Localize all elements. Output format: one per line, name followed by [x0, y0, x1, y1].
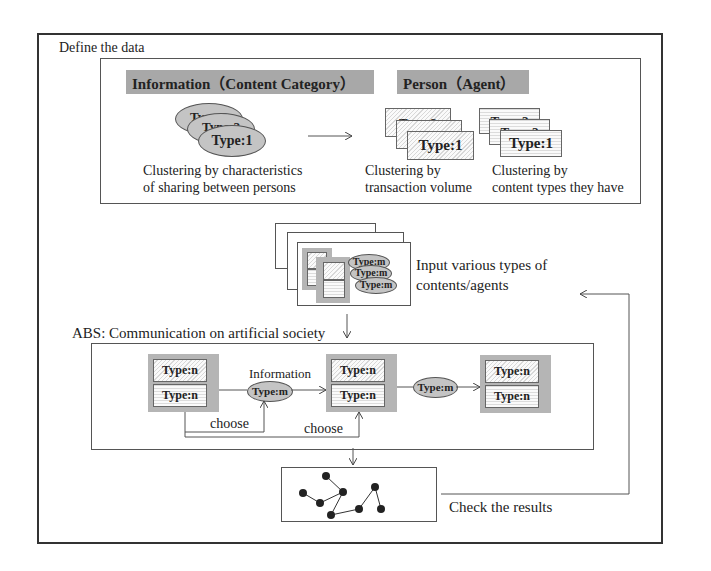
abs-agent-3-top: Type:n — [485, 360, 539, 383]
volume-caption: Clustering by transaction volume — [365, 162, 472, 196]
input-agent-group-2 — [316, 257, 350, 303]
input-doc-front: Type:m Type:m Type:m — [297, 242, 411, 306]
choose-label-1: choose — [210, 416, 249, 432]
abs-title: ABS: Communication on artificial society — [72, 325, 325, 342]
abs-agent-2-top: Type:n — [331, 359, 385, 382]
abs-agent-2-bottom: Type:n — [331, 384, 385, 407]
info-caption: Clustering by characteristics of sharing… — [143, 162, 302, 196]
volume-card-1: Type:1 — [407, 131, 474, 160]
input-ellipse-3: Type:m — [355, 277, 397, 294]
abs-agent-1-bottom: Type:n — [153, 384, 207, 407]
content-caption-line2: content types they have — [492, 179, 624, 196]
info-caption-line1: Clustering by characteristics — [143, 162, 302, 179]
volume-caption-line2: transaction volume — [365, 179, 472, 196]
input-caption-line2: contents/agents — [416, 275, 547, 295]
abs-agent-3: Type:n Type:n — [480, 355, 551, 413]
person-header: Person（Agent） — [397, 70, 529, 94]
results-caption: Check the results — [449, 499, 552, 516]
information-header: Information（Content Category） — [126, 70, 374, 94]
content-caption-line1: Clustering by — [492, 162, 624, 179]
abs-agent-1-top: Type:n — [153, 359, 207, 382]
abs-agent-3-bottom: Type:n — [485, 385, 539, 408]
choose-label-2: choose — [304, 421, 343, 437]
input-caption: Input various types of contents/agents — [416, 255, 547, 295]
message-ellipse-2: Type:m — [413, 377, 458, 398]
abs-agent-1: Type:n Type:n — [148, 354, 219, 412]
volume-caption-line1: Clustering by — [365, 162, 472, 179]
info-caption-line2: of sharing between persons — [143, 179, 302, 196]
results-panel — [281, 467, 437, 522]
message-ellipse-1: Type:m — [247, 381, 293, 402]
info-ellipse-1: Type:1 — [198, 125, 266, 157]
content-caption: Clustering by content types they have — [492, 162, 624, 196]
input-caption-line1: Input various types of — [416, 255, 547, 275]
information-label: Information — [249, 366, 311, 382]
abs-agent-2: Type:n Type:n — [326, 354, 397, 412]
define-title: Define the data — [59, 40, 145, 56]
content-card-1: Type:1 — [500, 130, 562, 157]
